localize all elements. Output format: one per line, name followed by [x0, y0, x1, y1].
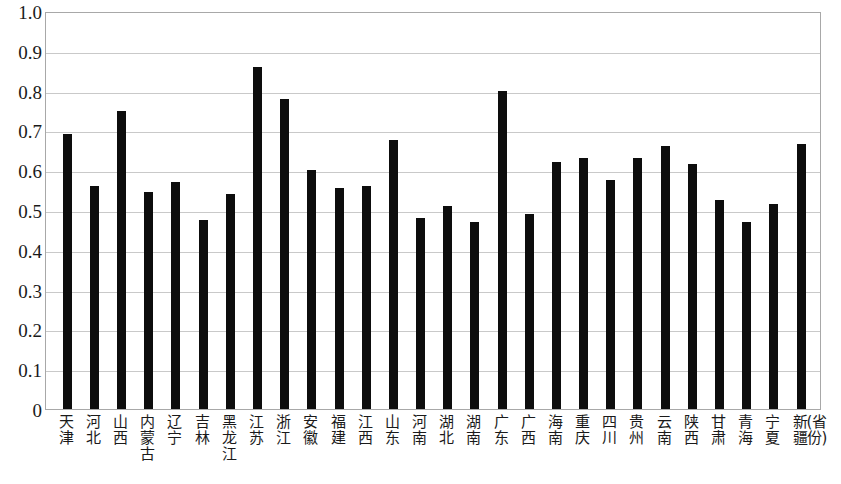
x-axis: 天津河北山西内蒙古辽宁吉林黑龙江江苏浙江安徽福建江西山东河南湖北湖南广东广西海南… — [45, 414, 821, 484]
y-axis-tick-label: 0.6 — [2, 162, 42, 181]
bar — [389, 140, 398, 409]
bar — [742, 222, 751, 409]
x-axis-tick-label: 江苏 — [246, 414, 266, 446]
x-axis-tick-label: 云南 — [654, 414, 674, 446]
bar — [498, 91, 507, 409]
x-axis-tick-label: 黑龙江 — [219, 414, 239, 462]
bar — [661, 146, 670, 409]
x-axis-tick-label: 河北 — [83, 414, 103, 446]
x-axis-tick-label: 贵州 — [627, 414, 647, 446]
bar-chart: 00.10.20.30.40.50.60.70.80.91.0 天津河北山西内蒙… — [0, 0, 841, 484]
bar — [715, 200, 724, 409]
x-axis-tick-label: 四川 — [600, 414, 620, 446]
bar — [63, 134, 72, 409]
bar — [90, 186, 99, 409]
bar — [769, 204, 778, 409]
bar — [552, 162, 561, 409]
x-axis-tick-label: 青海 — [736, 414, 756, 446]
x-axis-tick-label: 天津 — [56, 414, 76, 446]
x-axis-tick-label: 宁夏 — [763, 414, 783, 446]
y-axis-tick-label: 0.5 — [2, 202, 42, 221]
bar — [416, 218, 425, 409]
bar — [335, 188, 344, 409]
x-axis-tick-label: 重庆 — [573, 414, 593, 446]
x-axis-tick-label: 河南 — [410, 414, 430, 446]
y-axis-tick-label: 0.4 — [2, 241, 42, 260]
x-axis-tick-label: 湖南 — [464, 414, 484, 446]
bar — [579, 158, 588, 409]
x-axis-tick-label: 甘肃 — [709, 414, 729, 446]
bars-series — [46, 13, 820, 409]
y-axis: 00.10.20.30.40.50.60.70.80.91.0 — [0, 0, 42, 484]
x-axis-title: (省份) — [806, 414, 828, 446]
x-axis-tick-label: 广东 — [491, 414, 511, 446]
bar — [362, 186, 371, 409]
y-axis-tick-label: 0.3 — [2, 281, 42, 300]
x-axis-tick-label: 海南 — [545, 414, 565, 446]
x-axis-tick-label: 安徽 — [301, 414, 321, 446]
x-axis-tick-label: 福建 — [328, 414, 348, 446]
x-axis-tick-label: 内蒙古 — [138, 414, 158, 462]
bar — [117, 111, 126, 410]
bar — [470, 222, 479, 409]
x-axis-tick-label: 山东 — [382, 414, 402, 446]
bar — [144, 192, 153, 409]
bar — [226, 194, 235, 409]
y-axis-tick-label: 0.1 — [2, 361, 42, 380]
plot-area — [45, 12, 821, 410]
x-axis-tick-label: 江西 — [355, 414, 375, 446]
bar — [253, 67, 262, 409]
bar — [797, 144, 806, 409]
y-axis-tick-label: 0.8 — [2, 82, 42, 101]
y-axis-tick-label: 0.7 — [2, 122, 42, 141]
y-axis-tick-label: 0.2 — [2, 321, 42, 340]
y-axis-tick-label: 0.9 — [2, 42, 42, 61]
x-axis-tick-label: 辽宁 — [165, 414, 185, 446]
bar — [443, 206, 452, 409]
bar — [525, 214, 534, 409]
bar — [633, 158, 642, 409]
bar — [280, 99, 289, 409]
bar — [307, 170, 316, 409]
y-axis-tick-label: 1.0 — [2, 3, 42, 22]
bar — [199, 220, 208, 409]
bar — [171, 182, 180, 409]
bar — [688, 164, 697, 409]
x-axis-tick-label: 陕西 — [681, 414, 701, 446]
bar — [606, 180, 615, 409]
y-axis-tick-label: 0 — [2, 401, 42, 420]
x-axis-tick-label: 广西 — [518, 414, 538, 446]
x-axis-tick-label: 山西 — [111, 414, 131, 446]
x-axis-tick-label: 吉林 — [192, 414, 212, 446]
x-axis-tick-label: 浙江 — [274, 414, 294, 446]
x-axis-tick-label: 湖北 — [437, 414, 457, 446]
